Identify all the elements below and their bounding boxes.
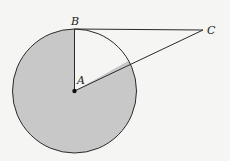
label-C: C — [207, 24, 216, 37]
diagram-canvas: B C A — [0, 0, 230, 161]
geometry-diagram: B C A — [0, 0, 230, 161]
segment-BC — [75, 29, 204, 30]
label-B: B — [70, 15, 79, 28]
point-A-dot — [72, 89, 76, 93]
label-A: A — [76, 74, 85, 87]
